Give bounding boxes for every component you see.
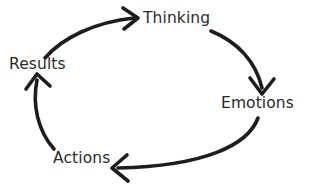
cycle-diagram: Thinking Emotions Actions Results: [0, 0, 310, 191]
arrow-emotions-to-actions: [112, 118, 258, 181]
arrow-thinking-to-emotions-shaft: [211, 31, 262, 88]
arrow-actions-to-results: [26, 74, 54, 149]
arrow-emotions-to-actions-shaft: [118, 118, 258, 168]
node-label-results: Results: [9, 57, 66, 73]
node-label-actions: Actions: [53, 151, 110, 167]
arrow-results-to-thinking: [45, 8, 138, 58]
arrow-thinking-to-emotions: [211, 31, 274, 94]
node-label-thinking: Thinking: [143, 11, 210, 27]
arrow-results-to-thinking-shaft: [45, 18, 134, 58]
node-label-emotions: Emotions: [221, 96, 294, 112]
arrow-actions-to-results-shaft: [35, 80, 54, 149]
